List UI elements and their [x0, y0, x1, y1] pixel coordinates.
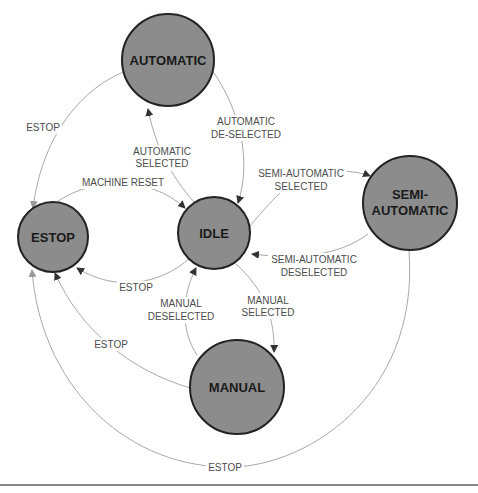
state-idle: IDLE [178, 197, 250, 269]
svg-text:ESTOP: ESTOP [119, 282, 153, 293]
svg-text:MANUAL: MANUAL [247, 295, 289, 306]
edge-label-semi-to-idle: SEMI-AUTOMATIC DESELECTED [268, 253, 360, 279]
svg-text:MANUAL: MANUAL [160, 298, 202, 309]
edge-label-automatic-to-idle: AUTOMATIC DE-SELECTED [210, 115, 286, 141]
edge-label-idle-to-estop: ESTOP [117, 281, 155, 294]
svg-text:MANUAL: MANUAL [209, 380, 265, 395]
svg-text:IDLE: IDLE [199, 226, 229, 241]
svg-text:DESELECTED: DESELECTED [148, 311, 215, 322]
svg-text:DESELECTED: DESELECTED [281, 267, 348, 278]
edge-label-manual-to-idle: MANUAL DESELECTED [146, 297, 218, 323]
svg-text:AUTOMATIC: AUTOMATIC [372, 203, 449, 218]
svg-text:ESTOP: ESTOP [26, 122, 60, 133]
transition-idle-to-estop [77, 258, 190, 283]
svg-text:ESTOP: ESTOP [94, 339, 128, 350]
state-automatic: AUTOMATIC [122, 14, 214, 106]
edge-label-manual-to-estop: ESTOP [92, 338, 130, 351]
state-manual: MANUAL [190, 340, 284, 434]
svg-text:SEMI-AUTOMATIC: SEMI-AUTOMATIC [258, 168, 344, 179]
svg-text:AUTOMATIC: AUTOMATIC [217, 116, 275, 127]
edge-label-idle-to-semi: SEMI-AUTOMATIC SELECTED [255, 167, 347, 193]
svg-text:SELECTED: SELECTED [275, 181, 328, 192]
svg-text:AUTOMATIC: AUTOMATIC [133, 146, 191, 157]
svg-text:AUTOMATIC: AUTOMATIC [130, 53, 207, 68]
state-diagram: ESTOP AUTOMATIC SELECTED AUTOMATIC DE-SE… [0, 0, 478, 493]
svg-text:SELECTED: SELECTED [242, 307, 295, 318]
state-estop: ESTOP [18, 202, 88, 272]
svg-text:SEMI-: SEMI- [392, 187, 428, 202]
svg-text:SEMI-AUTOMATIC: SEMI-AUTOMATIC [271, 254, 357, 265]
svg-text:MACHINE RESET: MACHINE RESET [82, 177, 164, 188]
edge-label-idle-to-manual: MANUAL SELECTED [238, 293, 298, 319]
state-semi-automatic: SEMI- AUTOMATIC [363, 156, 457, 250]
svg-text:ESTOP: ESTOP [208, 462, 242, 473]
edge-label-idle-to-automatic: AUTOMATIC SELECTED [128, 145, 192, 171]
svg-text:ESTOP: ESTOP [31, 230, 75, 245]
svg-text:DE-SELECTED: DE-SELECTED [211, 129, 281, 140]
svg-text:SELECTED: SELECTED [136, 158, 189, 169]
edge-label-estop-to-idle: MACHINE RESET [80, 176, 166, 189]
edge-label-automatic-to-estop: ESTOP [24, 121, 62, 134]
edge-label-semi-to-estop: ESTOP [206, 461, 244, 474]
